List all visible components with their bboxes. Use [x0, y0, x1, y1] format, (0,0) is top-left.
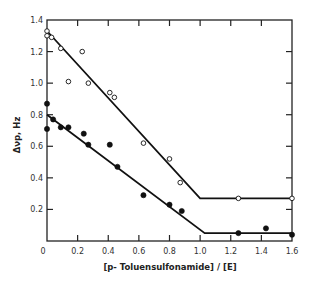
- open-circle-marker: [178, 180, 183, 185]
- filled-circle-marker: [66, 125, 71, 130]
- filled-circle-marker: [179, 208, 184, 213]
- y-tick-label: 1.4: [30, 16, 43, 25]
- x-tick-label: 0: [40, 247, 45, 256]
- filled-circle-marker: [263, 226, 268, 231]
- open-circle-marker: [66, 79, 71, 84]
- fit-line: [47, 31, 292, 198]
- open-circle-marker: [107, 90, 112, 95]
- filled-circle-marker: [58, 125, 63, 130]
- open-circle-marker: [141, 141, 146, 146]
- y-tick-label: 0.4: [30, 174, 43, 183]
- x-tick-label: 0.6: [133, 247, 146, 256]
- filled-circle-marker: [81, 131, 86, 136]
- filled-circle-marker: [107, 142, 112, 147]
- x-tick-label: 1.6: [286, 247, 299, 256]
- x-tick-label: 0.8: [163, 247, 176, 256]
- open-circle-marker: [86, 81, 91, 86]
- y-tick-label: 0.6: [30, 142, 43, 151]
- filled-circle-marker: [141, 193, 146, 198]
- x-tick-label: 1.0: [194, 247, 207, 256]
- filled-circle-marker: [236, 231, 241, 236]
- y-tick-label: 1.0: [30, 79, 43, 88]
- filled-circle-marker: [115, 164, 120, 169]
- axis-ticks: 00.20.40.60.81.01.21.41.60.20.40.60.81.0…: [30, 16, 298, 256]
- x-tick-label: 0.4: [102, 247, 115, 256]
- x-tick-label: 1.4: [255, 247, 268, 256]
- open-circle-marker: [58, 46, 63, 51]
- filled-circle-marker: [44, 126, 49, 131]
- x-axis-title: [p- Toluensulfonamide] / [E]: [103, 262, 236, 272]
- filled-circle-marker: [51, 117, 56, 122]
- filled-circle-marker: [44, 101, 49, 106]
- open-circle-marker: [49, 35, 54, 40]
- y-axis-title: Δνp, Hz: [12, 117, 22, 154]
- y-tick-label: 0.2: [30, 205, 43, 214]
- filled-circle-marker: [167, 202, 172, 207]
- open-circle-marker: [290, 196, 295, 201]
- open-circle-marker: [45, 29, 50, 34]
- open-circle-marker: [112, 95, 117, 100]
- data-points: [44, 29, 294, 238]
- open-circle-marker: [45, 33, 50, 38]
- open-circle-marker: [167, 157, 172, 162]
- chart: 00.20.40.60.81.01.21.41.60.20.40.60.81.0…: [0, 0, 313, 283]
- x-tick-label: 0.2: [71, 247, 84, 256]
- filled-circle-marker: [289, 232, 294, 237]
- x-tick-label: 1.2: [224, 247, 237, 256]
- open-circle-marker: [236, 196, 241, 201]
- open-circle-marker: [80, 49, 85, 54]
- y-tick-label: 1.2: [30, 48, 43, 57]
- y-tick-label: 0.8: [30, 111, 43, 120]
- filled-circle-marker: [86, 142, 91, 147]
